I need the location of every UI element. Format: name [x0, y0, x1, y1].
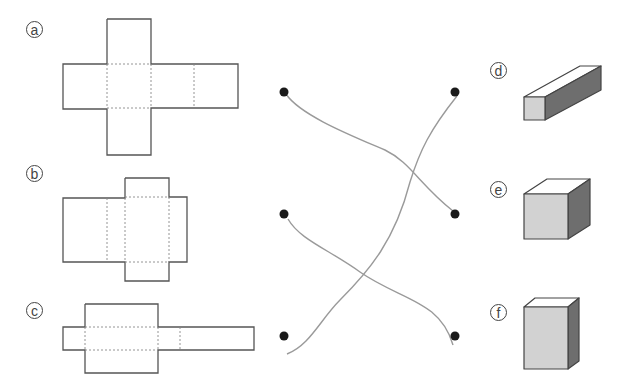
dot-a[interactable]	[280, 88, 289, 97]
net-c	[63, 304, 254, 373]
dot-b[interactable]	[280, 210, 289, 219]
connection-lines	[286, 94, 457, 354]
dot-c[interactable]	[280, 332, 289, 341]
net-b	[63, 178, 187, 281]
solid-d	[524, 66, 601, 120]
net-a	[63, 19, 238, 155]
dot-f[interactable]	[451, 332, 460, 341]
diagram-canvas	[0, 0, 618, 392]
connection-dots	[280, 88, 460, 341]
dot-e[interactable]	[451, 210, 460, 219]
solid-e	[524, 179, 590, 239]
dot-d[interactable]	[451, 88, 460, 97]
line-b-to-f	[288, 219, 453, 345]
solid-f	[524, 298, 579, 369]
line-a-to-e	[286, 94, 453, 211]
matching-diagram: a b c d e f	[0, 0, 618, 392]
line-c-to-d	[287, 96, 457, 354]
